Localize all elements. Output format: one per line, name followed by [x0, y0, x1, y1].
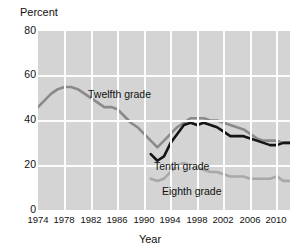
gridline-x-2010: [276, 31, 278, 210]
y-tick-40: 40: [2, 114, 36, 125]
gridline-x-2002: [223, 31, 225, 210]
series-label-twelfth-grade: Twelfth grade: [88, 88, 151, 100]
y-tick-80: 80: [2, 25, 36, 36]
series-label-eighth-grade: Eighth grade: [162, 185, 222, 197]
x-tick-2010: 2010: [259, 214, 293, 225]
gridline-x-1982: [91, 31, 93, 210]
line-chart: Percent 80 60 40 20 0 1974 1978 1982 198…: [0, 0, 300, 251]
gridline-x-1990: [144, 31, 146, 210]
y-tick-60: 60: [2, 69, 36, 80]
gridline-y-40: [38, 120, 290, 122]
y-tick-20: 20: [2, 159, 36, 170]
x-axis-title: Year: [0, 233, 300, 246]
gridline-x-1986: [117, 31, 119, 210]
gridline-x-2006: [250, 31, 252, 210]
gridline-x-1998: [197, 31, 199, 210]
gridline-x-1994: [170, 31, 172, 210]
gridline-x-1978: [64, 31, 66, 210]
series-label-tenth-grade: Tenth grade: [154, 160, 209, 172]
gridline-y-60: [38, 75, 290, 77]
plot-area: [38, 31, 290, 210]
